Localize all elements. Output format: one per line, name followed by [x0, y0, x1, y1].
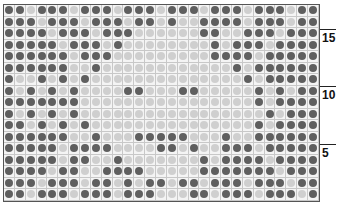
grid-cell	[102, 97, 113, 109]
dark-stitch-dot	[309, 52, 317, 60]
light-stitch-dot	[114, 144, 122, 152]
grid-cell	[145, 155, 156, 167]
grid-cell	[232, 51, 243, 63]
grid-cell	[123, 63, 134, 75]
grid-cell	[243, 17, 254, 29]
light-stitch-dot	[124, 110, 132, 118]
grid-cell	[37, 155, 48, 167]
grid-cell	[91, 189, 102, 201]
dark-stitch-dot	[92, 190, 100, 198]
light-stitch-dot	[124, 133, 132, 141]
dark-stitch-dot	[38, 167, 46, 175]
dark-stitch-dot	[92, 64, 100, 72]
light-stitch-dot	[244, 6, 252, 14]
grid-cell	[156, 63, 167, 75]
dark-stitch-dot	[233, 52, 241, 60]
dark-stitch-dot	[276, 156, 284, 164]
dark-stitch-dot	[222, 18, 230, 26]
dark-stitch-dot	[27, 133, 35, 141]
grid-cell	[123, 17, 134, 29]
grid-cell	[286, 155, 297, 167]
grid-cell	[221, 143, 232, 155]
dark-stitch-dot	[287, 133, 295, 141]
dark-stitch-dot	[233, 167, 241, 175]
grid-cell	[113, 166, 124, 178]
dark-stitch-dot	[168, 133, 176, 141]
grid-cell	[123, 5, 134, 17]
light-stitch-dot	[179, 190, 187, 198]
grid-cell	[4, 28, 15, 40]
light-stitch-dot	[200, 64, 208, 72]
light-stitch-dot	[92, 75, 100, 83]
grid-cell	[58, 143, 69, 155]
grid-cell	[189, 74, 200, 86]
grid-cell	[308, 28, 319, 40]
grid-cell	[243, 86, 254, 98]
grid-cell	[167, 155, 178, 167]
dark-stitch-dot	[59, 29, 67, 37]
dark-stitch-dot	[103, 18, 111, 26]
grid-cell	[113, 143, 124, 155]
grid-cell	[102, 74, 113, 86]
light-stitch-dot	[92, 110, 100, 118]
grid-cell	[178, 86, 189, 98]
dark-stitch-dot	[16, 167, 24, 175]
grid-cell	[102, 51, 113, 63]
grid-cell	[156, 132, 167, 144]
grid-cell	[232, 132, 243, 144]
grid-cell	[167, 189, 178, 201]
grid-cell	[254, 189, 265, 201]
dark-stitch-dot	[5, 64, 13, 72]
dark-stitch-dot	[298, 18, 306, 26]
grid-cell	[69, 74, 80, 86]
light-stitch-dot	[244, 18, 252, 26]
light-stitch-dot	[222, 98, 230, 106]
grid-cell	[275, 40, 286, 52]
dark-stitch-dot	[244, 41, 252, 49]
grid-cell	[80, 86, 91, 98]
dark-stitch-dot	[222, 52, 230, 60]
light-stitch-dot	[298, 190, 306, 198]
dark-stitch-dot	[190, 179, 198, 187]
grid-cell	[308, 5, 319, 17]
grid-cell	[243, 74, 254, 86]
grid-cell	[243, 63, 254, 75]
grid-cell	[178, 132, 189, 144]
grid-cell	[178, 63, 189, 75]
grid-cell	[308, 155, 319, 167]
grid-cell	[275, 74, 286, 86]
dark-stitch-dot	[59, 6, 67, 14]
light-stitch-dot	[81, 18, 89, 26]
grid-cell	[156, 109, 167, 121]
grid-cell	[145, 63, 156, 75]
light-stitch-dot	[200, 52, 208, 60]
grid-cell	[80, 5, 91, 17]
dark-stitch-dot	[59, 75, 67, 83]
light-stitch-dot	[211, 64, 219, 72]
dark-stitch-dot	[16, 156, 24, 164]
light-stitch-dot	[200, 87, 208, 95]
light-stitch-dot	[276, 110, 284, 118]
light-stitch-dot	[124, 98, 132, 106]
dark-stitch-dot	[81, 29, 89, 37]
grid-cell	[156, 51, 167, 63]
grid-cell	[178, 178, 189, 190]
light-stitch-dot	[190, 156, 198, 164]
grid-cell	[286, 189, 297, 201]
grid-cell	[4, 63, 15, 75]
dark-stitch-dot	[59, 18, 67, 26]
dark-stitch-dot	[233, 190, 241, 198]
light-stitch-dot	[233, 87, 241, 95]
grid-cell	[189, 178, 200, 190]
dark-stitch-dot	[5, 179, 13, 187]
grid-cell	[178, 51, 189, 63]
dark-stitch-dot	[70, 144, 78, 152]
grid-cell	[243, 97, 254, 109]
grid-cell	[167, 109, 178, 121]
grid-cell	[243, 155, 254, 167]
row-marker-5-label: 5	[322, 146, 329, 160]
light-stitch-dot	[135, 98, 143, 106]
grid-cell	[26, 143, 37, 155]
grid-cell	[134, 51, 145, 63]
dark-stitch-dot	[298, 75, 306, 83]
